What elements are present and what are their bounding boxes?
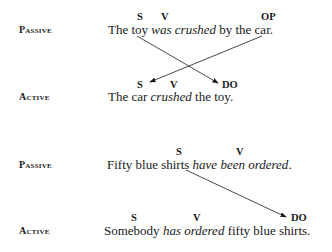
active-label-1: Active xyxy=(19,91,50,102)
tag-v: V xyxy=(161,11,169,22)
passive-label-1: Passive xyxy=(19,24,52,35)
active-label-2: Active xyxy=(19,225,50,236)
text: . xyxy=(288,157,291,172)
tag-do: DO xyxy=(291,212,307,223)
text: Somebody xyxy=(104,223,163,238)
tag-s: S xyxy=(131,212,137,223)
text: by the car. xyxy=(216,22,273,37)
active-sentence-2: Somebody has ordered fifty blue shirts. xyxy=(104,223,310,239)
tag-v: V xyxy=(193,212,201,223)
tag-op: OP xyxy=(261,11,276,22)
text: Fifty blue shirts xyxy=(107,157,193,172)
passive-label-2: Passive xyxy=(19,159,52,170)
verb-italic: was crushed xyxy=(151,22,216,37)
tag-s: S xyxy=(137,11,143,22)
text: The car xyxy=(108,89,151,104)
verb-italic: have been ordered xyxy=(193,157,289,172)
active-sentence-1: The car crushed the toy. xyxy=(108,89,233,105)
tag-s: S xyxy=(176,146,182,157)
arrow-car-to-s xyxy=(150,36,262,82)
arrow-shirts-to-do xyxy=(186,170,286,217)
verb-italic: has ordered xyxy=(163,223,225,238)
text: the toy. xyxy=(192,89,233,104)
tag-v: V xyxy=(236,146,244,157)
text: The toy xyxy=(108,22,151,37)
passive-sentence-2: Fifty blue shirts have been ordered. xyxy=(107,157,292,173)
arrow-toy-to-do xyxy=(137,36,218,83)
text: fifty blue shirts. xyxy=(224,223,310,238)
passive-sentence-1: The toy was crushed by the car. xyxy=(108,22,273,38)
verb-italic: crushed xyxy=(151,89,192,104)
